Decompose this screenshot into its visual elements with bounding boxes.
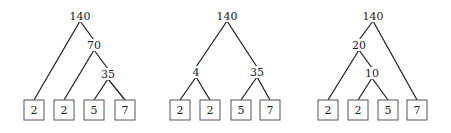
internal-node-label: 70 [87, 39, 101, 52]
leaf-label: 5 [91, 104, 98, 117]
leaf-label: 2 [207, 104, 214, 117]
tree-left-deep: 14070352257 [24, 10, 135, 121]
tree-edge [241, 77, 257, 100]
tree-edge [328, 50, 359, 100]
leaf-label: 2 [325, 104, 332, 117]
leaf-label: 7 [267, 104, 274, 117]
leaf-label: 5 [238, 104, 245, 117]
leaf-label: 2 [61, 104, 68, 117]
internal-node-label: 35 [101, 68, 115, 81]
tree-edge [94, 50, 108, 69]
leaf-label: 2 [355, 104, 362, 117]
internal-node-label: 35 [250, 66, 264, 79]
leaf-label: 7 [414, 104, 421, 117]
tree-diagram-canvas: 14070352257140435225714020102257 [0, 0, 451, 133]
tree-edge [196, 21, 227, 67]
internal-node-label: 140 [70, 10, 91, 23]
tree-edge [34, 21, 80, 100]
tree-edge [227, 21, 257, 67]
internal-node-label: 140 [217, 10, 238, 23]
tree-edge [108, 79, 125, 100]
tree-edge [257, 77, 270, 100]
tree-edge [196, 77, 210, 100]
leaf-label: 2 [177, 104, 184, 117]
internal-node-label: 10 [365, 67, 379, 80]
leaf-label: 5 [385, 104, 392, 117]
tree-balanced: 1404352257 [170, 10, 280, 121]
tree-edge [359, 50, 372, 68]
internal-node-label: 20 [352, 39, 366, 52]
tree-edge [180, 77, 196, 100]
leaf-label: 2 [31, 104, 38, 117]
internal-node-label: 4 [193, 66, 200, 79]
tree-edge [94, 79, 108, 100]
leaf-label: 7 [122, 104, 129, 117]
internal-node-label: 140 [363, 10, 384, 23]
tree-edge [64, 50, 94, 100]
tree-right-heavy: 14020102257 [318, 10, 427, 121]
tree-edge [372, 78, 388, 100]
tree-edge [358, 78, 372, 100]
tree-edge [359, 21, 373, 40]
tree-edge [80, 21, 94, 40]
